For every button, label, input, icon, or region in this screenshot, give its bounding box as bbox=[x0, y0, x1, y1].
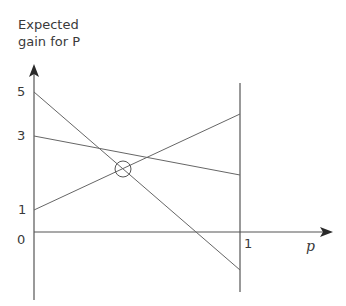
y-axis-label-line1: Expected bbox=[18, 16, 80, 33]
y-tick-1: 1 bbox=[18, 202, 26, 217]
y-tick-0: 0 bbox=[17, 232, 25, 247]
y-axis-label-line2: gain for P bbox=[18, 33, 80, 50]
expected-gain-chart: Expected gain for P 5 3 1 0 1 p bbox=[0, 0, 346, 306]
y-axis-label: Expected gain for P bbox=[18, 16, 80, 50]
series-line-from-5 bbox=[34, 92, 240, 270]
y-tick-5: 5 bbox=[17, 84, 25, 99]
y-tick-3: 3 bbox=[17, 128, 25, 143]
x-tick-1: 1 bbox=[244, 236, 252, 251]
x-axis-variable-p: p bbox=[306, 238, 315, 254]
series-line-from-3 bbox=[34, 136, 240, 175]
series-line-from-1 bbox=[34, 114, 240, 210]
